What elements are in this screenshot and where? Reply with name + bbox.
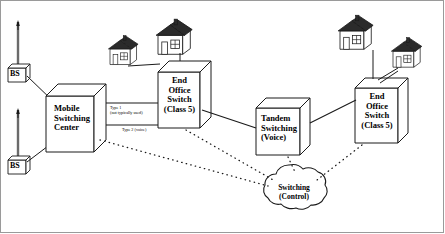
link-label-type2: Type 2 (voice): [122, 127, 146, 132]
bs-bottom-label: BS: [10, 161, 20, 170]
diagram-canvas: Mobile Switching Center End Office Switc…: [0, 0, 445, 234]
trunk-tandem-eo-right: [310, 100, 356, 123]
node-end-office-switch-left[interactable]: [158, 61, 211, 128]
diagram-vector-layer: [0, 0, 445, 234]
house-right-large: [338, 15, 373, 49]
house-left-large: [156, 19, 192, 54]
bs-top-label: BS: [10, 69, 20, 78]
node-tandem-switching[interactable]: [256, 98, 310, 155]
node-mobile-switching-center[interactable]: [46, 84, 106, 152]
node-end-office-switch-right[interactable]: [355, 78, 408, 143]
link-label-type1: Type 1 (not typically used): [110, 105, 143, 115]
trunk-eo-left-tandem: [202, 110, 256, 128]
house-left-small: [108, 36, 138, 65]
link-house-left-small-eo: [128, 64, 160, 66]
house-right-small: [391, 38, 421, 68]
cloud-label: Switching (Control): [263, 183, 325, 201]
signal-eo-right-cloud: [317, 145, 362, 180]
